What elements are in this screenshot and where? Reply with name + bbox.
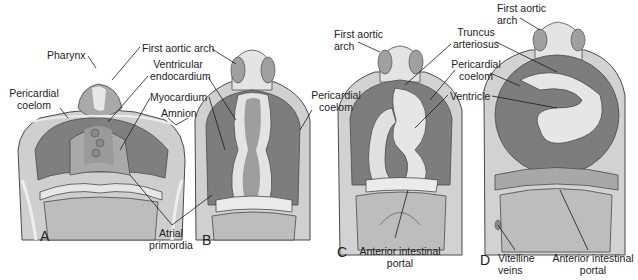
label-vitelline-veins: Vitelline veins: [498, 252, 535, 276]
label-anterior-intestinal-portal-c: Anterior intestinal portal: [352, 245, 448, 269]
panel-d-drawing: [484, 22, 625, 255]
label-pericardial-coelom-c: Pericardial coelom: [448, 58, 504, 82]
label-pericardial-coelom-b: Pericardial coelom: [308, 89, 364, 113]
panel-letter-d: D: [480, 252, 490, 268]
panel-letter-a: A: [40, 228, 49, 244]
panel-letter-b: B: [202, 232, 211, 248]
panel-c-drawing: [338, 46, 462, 255]
label-ventricular-endocardium: Ventricular endocardium: [150, 58, 206, 82]
label-truncus-arteriosus: Truncus arteriosus: [448, 26, 504, 50]
label-atrial-primordia: Atrial primordia: [146, 227, 196, 251]
label-first-aortic-arch-d: First aortic arch: [497, 2, 546, 26]
label-pharynx: Pharynx: [47, 49, 86, 61]
label-anterior-intestinal-portal-d: Anterior intestinal portal: [545, 252, 638, 276]
label-pericardial-coelom-a: Pericardial coelom: [6, 87, 62, 111]
panel-b-drawing: [195, 50, 310, 240]
label-ventricle: Ventricle: [450, 90, 490, 102]
label-first-aortic-arch-c: First aortic arch: [334, 28, 383, 52]
panel-letter-c: C: [337, 244, 347, 260]
label-first-aortic-arch: First aortic arch: [142, 42, 214, 54]
label-myocardium: Myocardium: [150, 91, 207, 103]
diagram-artwork: [0, 0, 638, 280]
label-amnion: Amnion: [161, 107, 197, 119]
